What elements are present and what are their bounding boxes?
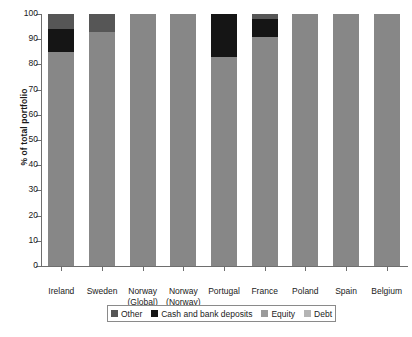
bar-segment <box>333 14 359 266</box>
bar-segment <box>130 14 156 266</box>
plot-area: 0102030405060708090100 IrelandSwedenNorw… <box>41 14 407 266</box>
legend-item[interactable]: Debt <box>304 309 332 319</box>
bar-poland <box>292 14 318 266</box>
bar-segment <box>252 37 278 266</box>
legend-label: Equity <box>271 309 295 319</box>
y-tick-label: 20 <box>8 210 38 220</box>
bar-ireland <box>48 14 74 266</box>
bar-segment <box>211 57 237 266</box>
bar-segment <box>48 52 74 266</box>
x-tick-mark <box>183 266 184 271</box>
y-tick-label: 70 <box>8 84 38 94</box>
bar-segment <box>211 14 237 57</box>
bar-portugal <box>211 14 237 266</box>
legend-item[interactable]: Other <box>111 309 142 319</box>
x-tick-mark <box>346 266 347 271</box>
y-tick-label: 40 <box>8 159 38 169</box>
y-tick-label: 0 <box>8 260 38 270</box>
x-axis-label-line: Belgium <box>355 286 412 297</box>
stacked-bar-chart: % of total portfolio 0102030405060708090… <box>0 0 412 337</box>
y-tick-label: 90 <box>8 33 38 43</box>
y-axis-title: % of total portfolio <box>19 57 29 197</box>
x-tick-mark <box>61 266 62 271</box>
y-tick-label: 50 <box>8 134 38 144</box>
legend-swatch-icon <box>304 310 311 317</box>
legend-item[interactable]: Equity <box>261 309 295 319</box>
x-tick-mark <box>224 266 225 271</box>
legend-label: Other <box>121 309 142 319</box>
bar-spain <box>333 14 359 266</box>
x-axis-label: Belgium <box>355 286 412 297</box>
y-tick-label: 100 <box>8 8 38 18</box>
bar-segment <box>252 19 278 37</box>
y-tick-label: 10 <box>8 235 38 245</box>
bar-segment <box>48 29 74 52</box>
legend-label: Debt <box>314 309 332 319</box>
legend-label: Cash and bank deposits <box>161 309 252 319</box>
legend-swatch-icon <box>151 310 158 317</box>
bar-segment <box>89 32 115 266</box>
bar-segment <box>89 14 115 32</box>
legend-swatch-icon <box>111 310 118 317</box>
x-tick-mark <box>305 266 306 271</box>
bar-sweden <box>89 14 115 266</box>
y-axis-line <box>41 14 42 267</box>
x-tick-mark <box>143 266 144 271</box>
x-tick-mark <box>387 266 388 271</box>
bar-segment <box>48 14 74 29</box>
y-tick-label: 60 <box>8 109 38 119</box>
bar-segment <box>170 14 196 266</box>
bar-norway-norway <box>170 14 196 266</box>
x-tick-mark <box>102 266 103 271</box>
bar-segment <box>292 14 318 266</box>
y-tick-label: 30 <box>8 184 38 194</box>
bar-belgium <box>374 14 400 266</box>
chart-legend: OtherCash and bank depositsEquityDebt <box>107 305 336 322</box>
legend-item[interactable]: Cash and bank deposits <box>151 309 252 319</box>
bar-segment <box>374 14 400 266</box>
bar-france <box>252 14 278 266</box>
x-tick-mark <box>265 266 266 271</box>
legend-swatch-icon <box>261 310 268 317</box>
bar-norway-global <box>130 14 156 266</box>
y-tick-label: 80 <box>8 58 38 68</box>
